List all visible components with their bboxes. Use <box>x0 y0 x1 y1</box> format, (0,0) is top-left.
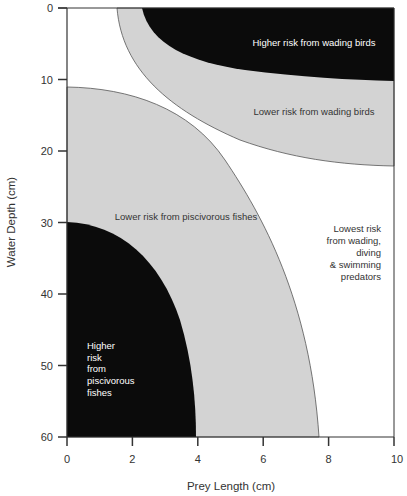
x-tick-label: 10 <box>391 453 403 465</box>
label-lower-risk-fish: Lower risk from piscivorous fishes <box>115 211 258 222</box>
y-tick-label: 40 <box>41 288 53 300</box>
y-tick-labels: 0 10 20 30 40 50 60 <box>41 2 53 443</box>
label-line: diving <box>356 247 381 258</box>
y-tick-label: 0 <box>47 2 53 14</box>
label-line: predators <box>341 271 381 282</box>
x-tick-label: 6 <box>260 453 266 465</box>
y-ticks <box>58 8 67 437</box>
y-tick-label: 60 <box>41 431 53 443</box>
x-tick-label: 8 <box>326 453 332 465</box>
y-tick-label: 10 <box>41 74 53 86</box>
label-lower-risk-wading: Lower risk from wading birds <box>254 106 375 117</box>
risk-diagram: 0 10 20 30 40 50 60 0 2 4 6 8 10 Prey Le… <box>0 0 407 496</box>
label-line: risk <box>87 352 102 363</box>
label-line: & swimming <box>330 259 381 270</box>
label-line: from <box>87 363 106 374</box>
x-ticks <box>67 437 394 446</box>
label-line: piscivorous <box>87 375 135 386</box>
label-line: Higher <box>87 340 115 351</box>
label-line: fishes <box>87 387 112 398</box>
y-tick-label: 50 <box>41 360 53 372</box>
x-axis-title: Prey Length (cm) <box>187 480 275 492</box>
y-axis-title: Water Depth (cm) <box>5 177 17 267</box>
x-tick-label: 0 <box>64 453 70 465</box>
x-tick-labels: 0 2 4 6 8 10 <box>64 453 403 465</box>
label-higher-risk-wading: Higher risk from wading birds <box>252 37 375 48</box>
y-tick-label: 20 <box>41 145 53 157</box>
x-tick-label: 2 <box>129 453 135 465</box>
y-tick-label: 30 <box>41 217 53 229</box>
label-line: Lowest risk <box>333 223 381 234</box>
label-line: from wading, <box>327 235 381 246</box>
x-tick-label: 4 <box>195 453 201 465</box>
